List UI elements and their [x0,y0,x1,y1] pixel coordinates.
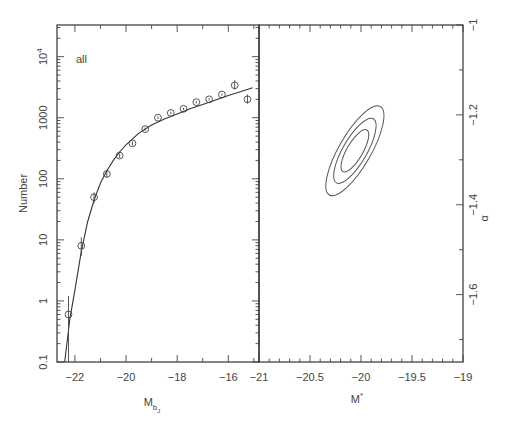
x-tick-label: −18 [168,371,187,383]
y-tick-label: 1 [37,298,49,304]
x-tick-label: −19.5 [398,371,426,383]
y-tick-label: 10 [37,234,49,246]
y-tick-label: 100 [37,170,49,188]
x-tick-label: −21 [250,371,269,383]
x-axis-label: M* [351,391,363,405]
y-tick-label: 104 [35,48,49,65]
figure: −22−20−18−160.11101001000104NumberMbJall… [0,0,511,427]
y-tick-label: 1000 [37,105,49,129]
sample-annotation: all [76,53,87,65]
y-tick-label: −1.4 [467,194,479,216]
y-tick-label: −1.6 [467,284,479,306]
right-plot-frame [259,25,463,362]
y-tick-label: −1 [467,19,479,32]
y-tick-label: −1.2 [467,104,479,126]
likelihood-contour [316,99,395,203]
schechter-fit-line [65,88,253,362]
likelihood-contour-panel: −21−20.5−20−19.5−19−1−1.2−1.4−1.6αM* [250,19,490,405]
x-tick-label: −20 [352,371,371,383]
left-plot-frame [57,25,259,362]
x-tick-label: −22 [66,371,85,383]
luminosity-function-panel: −22−20−18−160.11101001000104NumberMbJall [17,25,259,414]
y-axis-label: Number [17,174,29,213]
x-axis-label: MbJ [144,396,161,414]
x-tick-label: −20 [117,371,136,383]
x-tick-label: −16 [219,371,238,383]
y-tick-label: 0.1 [37,354,49,369]
y-axis-label: α [478,214,490,221]
x-tick-label: −20.5 [296,371,324,383]
x-tick-label: −19 [454,371,473,383]
likelihood-contour [326,113,384,189]
